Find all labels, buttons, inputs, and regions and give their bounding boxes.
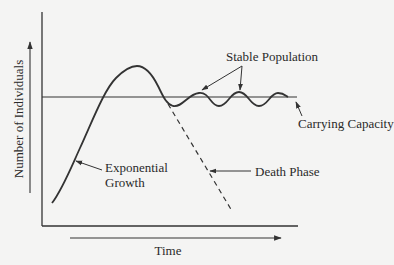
annotation-exponential-growth: Exponential Growth [76, 160, 168, 190]
death-phase-label: Death Phase [255, 164, 320, 179]
population-growth-diagram: Number of Individuals Time Exponential G… [0, 0, 394, 265]
x-axis-label: Time [155, 243, 182, 258]
annotation-stable-population: Stable Population [202, 49, 319, 90]
exponential-growth-label-line1: Exponential [105, 160, 168, 175]
plot-frame [42, 12, 298, 226]
stable-population-arrow-2-icon [240, 66, 242, 90]
death-phase-line [168, 104, 232, 211]
population-curve [52, 66, 288, 203]
annotation-carrying-capacity: Carrying Capacity [296, 102, 394, 131]
stable-population-label: Stable Population [226, 49, 319, 64]
exponential-growth-arrow-icon [76, 161, 102, 170]
carrying-capacity-label: Carrying Capacity [298, 116, 394, 131]
annotation-death-phase: Death Phase [210, 164, 320, 179]
carrying-capacity-arrow-icon [296, 102, 302, 116]
y-axis-label: Number of Individuals [11, 60, 26, 178]
diagram-canvas: Number of Individuals Time Exponential G… [0, 0, 394, 265]
stable-population-arrow-1-icon [202, 66, 242, 90]
exponential-growth-label-line2: Growth [105, 175, 145, 190]
